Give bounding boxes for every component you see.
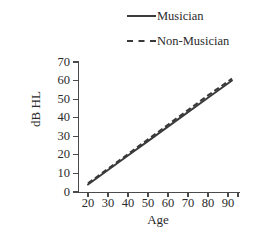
y-axis-label: dB HL	[28, 69, 44, 149]
y-tick-mark	[73, 117, 78, 118]
y-axis-spine	[78, 61, 79, 193]
y-tick-label: 70	[30, 56, 70, 68]
y-tick-mark	[73, 99, 78, 100]
x-tick-mark	[237, 192, 238, 197]
y-tick-mark	[73, 154, 78, 155]
legend-label-musician: Musician	[156, 10, 204, 23]
y-tick-mark	[73, 136, 78, 137]
legend-line-dashed-icon	[127, 35, 156, 47]
series-line-musician	[88, 81, 232, 185]
legend-entry-non-musician: Non-Musician	[127, 33, 229, 49]
y-tick-label: 0	[30, 186, 70, 198]
x-axis-label: Age	[78, 212, 238, 228]
y-tick-mark	[73, 61, 78, 62]
x-axis-spine	[77, 192, 240, 193]
y-tick-mark	[73, 80, 78, 81]
y-tick-label: 10	[30, 167, 70, 179]
legend-label-non-musician: Non-Musician	[156, 35, 229, 48]
legend-line-solid-icon	[127, 10, 156, 22]
x-tick-label: 90	[216, 197, 240, 210]
y-tick-label: 20	[30, 148, 70, 160]
y-tick-mark	[73, 191, 78, 192]
chart-figure: Musician Non-Musician 010203040506070 20…	[0, 0, 259, 242]
legend-entry-musician: Musician	[127, 8, 204, 24]
y-tick-mark	[73, 173, 78, 174]
series-line-non-musician	[88, 79, 232, 184]
chart-legend: Musician Non-Musician	[0, 0, 259, 52]
